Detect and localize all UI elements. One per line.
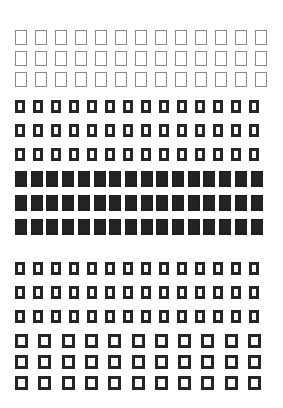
square-icon [141, 195, 153, 211]
square-icon [15, 355, 28, 369]
square-icon [15, 30, 27, 45]
square-icon [87, 124, 97, 137]
square-icon [248, 355, 261, 369]
square-icon [135, 30, 147, 45]
square-icon [195, 262, 205, 275]
square-icon [69, 148, 79, 161]
square-icon [231, 262, 241, 275]
square-icon [15, 286, 25, 299]
square-icon [155, 72, 167, 87]
square-icon [95, 30, 107, 45]
square-icon [235, 30, 247, 45]
square-icon [123, 310, 133, 323]
square-icon [85, 355, 98, 369]
square-icon [95, 72, 107, 87]
square-icon [175, 51, 187, 66]
square-icon [15, 72, 27, 87]
square-icon [135, 51, 147, 66]
square-icon [156, 219, 168, 235]
square-icon [175, 72, 187, 87]
square-icon [248, 376, 261, 390]
square-icon [235, 171, 247, 187]
square-icon [94, 195, 106, 211]
square-icon [219, 171, 231, 187]
square-icon [155, 30, 167, 45]
square-icon [249, 124, 259, 137]
square-icon [141, 124, 151, 137]
square-icon [159, 310, 169, 323]
square-icon [178, 376, 191, 390]
square-icon [213, 148, 223, 161]
square-icon [255, 72, 267, 87]
square-icon [225, 355, 238, 369]
square-icon [141, 100, 151, 113]
square-icon [123, 148, 133, 161]
square-icon [188, 219, 200, 235]
square-icon [201, 376, 214, 390]
square-icon [249, 262, 259, 275]
square-icon [105, 148, 115, 161]
square-icon [231, 310, 241, 323]
square-icon [15, 195, 27, 211]
square-icon [75, 30, 87, 45]
square-icon [62, 171, 74, 187]
square-icon [155, 355, 168, 369]
square-icon [62, 376, 75, 390]
square-icon [125, 195, 137, 211]
square-icon [172, 195, 184, 211]
square-icon [213, 310, 223, 323]
square-icon [51, 262, 61, 275]
square-icon [105, 310, 115, 323]
square-icon [219, 195, 231, 211]
square-icon [51, 148, 61, 161]
square-icon [78, 219, 90, 235]
square-icon [203, 171, 215, 187]
square-icon [109, 195, 121, 211]
square-icon [249, 310, 259, 323]
square-icon [33, 262, 43, 275]
square-icon [175, 30, 187, 45]
square-icon [195, 51, 207, 66]
square-icon [156, 195, 168, 211]
cropped-header-fragment [4, 0, 46, 3]
square-icon [38, 355, 51, 369]
square-icon [75, 51, 87, 66]
square-icon [35, 30, 47, 45]
square-icon [75, 72, 87, 87]
square-icon [105, 124, 115, 137]
square-icon [55, 30, 67, 45]
square-icon [188, 171, 200, 187]
square-icon [69, 100, 79, 113]
square-icon [177, 262, 187, 275]
square-icon [78, 171, 90, 187]
square-icon [115, 72, 127, 87]
square-icon [213, 286, 223, 299]
square-icon [108, 334, 121, 348]
square-icon [51, 310, 61, 323]
square-icon [69, 124, 79, 137]
square-icon [69, 310, 79, 323]
square-icon [109, 171, 121, 187]
square-icon [155, 334, 168, 348]
square-icon [213, 124, 223, 137]
square-icon [248, 334, 261, 348]
square-icon [249, 286, 259, 299]
square-icon [213, 262, 223, 275]
square-icon [108, 376, 121, 390]
square-icon [115, 30, 127, 45]
square-icon [195, 148, 205, 161]
square-icon [87, 262, 97, 275]
square-icon [172, 171, 184, 187]
square-icon [195, 286, 205, 299]
square-icon [255, 30, 267, 45]
square-icon [201, 334, 214, 348]
square-icon [135, 72, 147, 87]
square-icon [195, 124, 205, 137]
square-icon [251, 219, 263, 235]
square-icon [15, 124, 25, 137]
square-icon [62, 334, 75, 348]
square-icon [177, 286, 187, 299]
square-icon [125, 219, 137, 235]
square-icon [62, 355, 75, 369]
square-icon [94, 171, 106, 187]
